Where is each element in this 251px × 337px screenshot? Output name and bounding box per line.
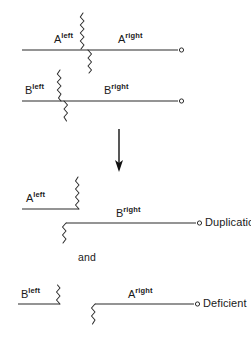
terminal-circle-a bbox=[179, 48, 183, 52]
conjunction-label: and bbox=[78, 252, 96, 263]
label-dup-left-sup: left bbox=[33, 190, 45, 199]
squiggle-b-lower bbox=[64, 101, 68, 121]
outcome-label-duplication: Duplication bbox=[205, 217, 251, 228]
label-a-right-sup: right bbox=[125, 31, 142, 40]
squiggle-def-left bbox=[57, 285, 61, 304]
label-a-right: Aright bbox=[118, 32, 143, 45]
label-def-left-sup: left bbox=[28, 286, 40, 295]
squiggle-def-right bbox=[92, 304, 96, 324]
label-b-right: Bright bbox=[104, 83, 129, 96]
label-def-right-sup: right bbox=[135, 286, 152, 295]
squiggle-b-upper bbox=[57, 70, 61, 101]
terminal-circle-duplication bbox=[197, 221, 201, 225]
label-a-left: Aleft bbox=[54, 32, 73, 45]
label-dup-right-sup: right bbox=[123, 205, 140, 214]
outcome-label-deficient: Deficient bbox=[203, 298, 247, 309]
squiggle-a-upper bbox=[80, 13, 84, 49]
label-dup-right: Bright bbox=[116, 206, 141, 219]
label-b-left: Bleft bbox=[25, 83, 44, 96]
label-b-right-sup: right bbox=[111, 82, 128, 91]
label-def-left: Bleft bbox=[21, 287, 40, 300]
label-b-left-sup: left bbox=[32, 82, 44, 91]
label-def-right: Aright bbox=[128, 287, 153, 300]
squiggle-dup-lower bbox=[63, 223, 67, 243]
label-a-left-sup: left bbox=[61, 31, 73, 40]
squiggle-a-lower bbox=[88, 50, 92, 73]
recombination-figure: Aleft Aright Bleft Bright Aleft Bright D… bbox=[0, 0, 251, 337]
label-dup-left: Aleft bbox=[26, 191, 45, 204]
terminal-circle-deficient bbox=[195, 302, 199, 306]
terminal-circle-b bbox=[179, 99, 183, 103]
squiggle-dup-upper bbox=[76, 177, 80, 209]
